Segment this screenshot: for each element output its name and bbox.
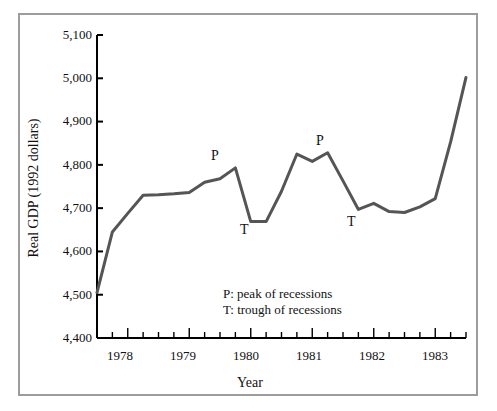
gdp-recession-chart-figure: 5,100 5,000 4,900 4,800 4,700 4,600 4,50… — [0, 0, 497, 411]
axis-lines — [97, 35, 466, 338]
plot-area — [0, 0, 497, 411]
gdp-line-series — [97, 77, 466, 292]
x-axis-ticks — [97, 328, 466, 338]
